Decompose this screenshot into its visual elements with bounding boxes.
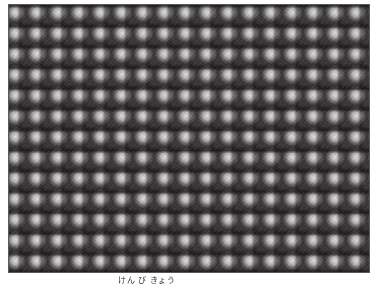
- microscope-image: [8, 4, 370, 273]
- image-caption: けん び きょう: [118, 276, 175, 286]
- image-grain: [9, 5, 369, 272]
